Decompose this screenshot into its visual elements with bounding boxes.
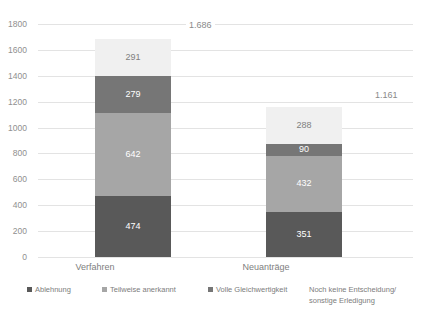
bar-segment[interactable]: 474 [95,196,171,257]
legend-swatch-icon [27,287,32,292]
legend-swatch-icon [208,287,213,292]
x-axis-label-0: Verfahren [25,262,165,272]
bar-segment[interactable]: 90 [266,144,342,156]
bar-segment[interactable]: 279 [95,76,171,112]
bar-segment-value-label: 351 [296,230,311,239]
y-axis-tick-label: 1000 [0,124,27,133]
total-annotation-neuantraege: 1.161 [372,90,401,100]
bar-segment-value-label: 432 [296,179,311,188]
legend-item-teilweise-anerkannt[interactable]: Teilweise anerkannt [102,284,176,295]
legend-swatch-icon [102,287,107,292]
bar-segment-value-label: 288 [296,121,311,130]
y-axis-tick-label: 600 [0,175,27,184]
bar-segment-value-label: 291 [125,53,140,62]
bar-segment[interactable]: 288 [266,107,342,144]
legend-item-volle-gleichwertigkeit[interactable]: Volle Gleichwertigkeit [208,284,287,295]
chart-title [0,0,421,4]
x-axis-label-1: Neuanträge [196,262,336,272]
y-axis-tick-label: 1400 [0,72,27,81]
legend-item-label-line1: Noch keine Entscheidung/ [309,285,396,294]
legend-item-label: Ablehnung [35,284,71,295]
legend-item-ablehnung[interactable]: Ablehnung [27,284,71,295]
y-axis-tick-label: 1800 [0,20,27,29]
bar-segment-value-label: 279 [125,90,140,99]
legend-item-label: Teilweise anerkannt [110,284,176,295]
bar-segment-value-label: 474 [125,222,140,231]
legend-item-label: Noch keine Entscheidung/ sonstige Erledi… [309,284,396,307]
bar-segment[interactable]: 351 [266,212,342,257]
y-axis-tick-label: 1600 [0,46,27,55]
gridline [38,24,413,25]
y-axis-tick-label: 0 [0,253,27,262]
bar-segment-value-label: 642 [125,150,140,159]
y-axis-tick-label: 1200 [0,98,27,107]
chart-legend: Ablehnung Teilweise anerkannt Volle Glei… [27,283,421,313]
legend-item-label: Volle Gleichwertigkeit [216,284,287,295]
y-axis-tick-label: 400 [0,201,27,210]
bar-segment-value-label: 90 [299,145,309,154]
stacked-bar-chart: 180016001400120010008006004002000 291279… [0,0,421,320]
plot-area: 180016001400120010008006004002000 291279… [38,24,413,257]
y-axis-tick-label: 800 [0,149,27,158]
bar-stack-neuantraege[interactable]: 28890432351 [266,107,342,257]
bar-segment[interactable]: 642 [95,113,171,196]
total-annotation-verfahren: 1.686 [186,20,215,30]
bar-stack-verfahren[interactable]: 291279642474 [95,39,171,257]
bar-segment[interactable]: 432 [266,156,342,212]
legend-item-label-line2: sonstige Erledigung [309,295,396,306]
bar-segment[interactable]: 291 [95,39,171,77]
y-axis-tick-label: 200 [0,227,27,236]
legend-item-noch-keine-entscheidung[interactable]: Noch keine Entscheidung/ sonstige Erledi… [301,284,396,307]
gridline [38,257,413,258]
